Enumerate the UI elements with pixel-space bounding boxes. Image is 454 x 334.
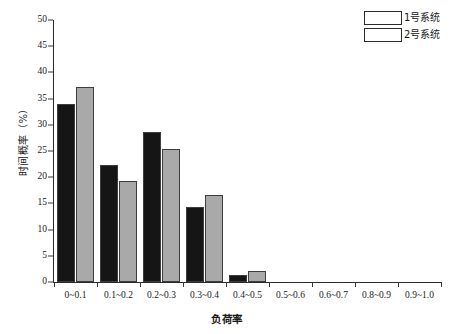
- x-axis-tick-mark: [226, 282, 227, 287]
- x-axis-tick-mark: [312, 282, 313, 287]
- x-axis-tick-mark: [441, 282, 442, 287]
- y-axis-tick-label: 40: [38, 68, 48, 78]
- plot-area: [54, 20, 441, 282]
- bar-2-group-2: [119, 181, 137, 282]
- bar-1-group-2: [100, 165, 118, 282]
- bar-2-group-1: [76, 87, 94, 282]
- y-axis-tick-label: 0: [42, 277, 47, 287]
- x-axis-tick-mark: [97, 282, 98, 287]
- x-axis-tick-label: 0.9~1.0: [405, 290, 434, 301]
- x-axis-tick-mark: [140, 282, 141, 287]
- bar-1-group-1: [57, 104, 75, 282]
- x-axis-tick-mark: [183, 282, 184, 287]
- y-axis-tick-label: 15: [38, 199, 48, 209]
- y-axis-tick-label: 25: [38, 146, 48, 156]
- y-axis-tick-label: 20: [38, 172, 48, 182]
- y-axis-tick-label: 35: [38, 94, 48, 104]
- bar-2-group-3: [162, 149, 180, 282]
- x-axis-tick-mark: [355, 282, 356, 287]
- x-axis-tick-label: 0.6~0.7: [319, 290, 348, 301]
- bar-2-group-5: [248, 271, 266, 282]
- x-axis-tick-label: 0~0.1: [65, 290, 87, 301]
- bar-1-group-5: [229, 275, 247, 282]
- bar-1-group-3: [143, 132, 161, 282]
- x-axis-tick-label: 0.1~0.2: [104, 290, 133, 301]
- y-axis-ticks: 05101520253035404550: [0, 0, 53, 334]
- bar-2-group-4: [205, 195, 223, 282]
- y-axis-tick-label: 5: [42, 251, 47, 261]
- x-axis-tick-mark: [54, 282, 55, 287]
- x-axis-title: 负荷率: [0, 311, 454, 326]
- x-axis-tick-mark: [269, 282, 270, 287]
- x-axis-tick-label: 0.4~0.5: [233, 290, 262, 301]
- y-axis-tick-label: 30: [38, 120, 48, 130]
- x-axis-tick-label: 0.5~0.6: [276, 290, 305, 301]
- bar-chart: 1号系统 2号系统 时间概率（%） 05101520253035404550 负…: [0, 0, 454, 334]
- bar-1-group-4: [186, 207, 204, 282]
- x-axis-tick-label: 0.2~0.3: [147, 290, 176, 301]
- y-axis-tick-label: 10: [38, 225, 48, 235]
- x-axis-tick-label: 0.8~0.9: [362, 290, 391, 301]
- y-axis-tick-label: 45: [38, 41, 48, 51]
- x-axis-tick-mark: [398, 282, 399, 287]
- x-axis-line: [53, 282, 441, 283]
- y-axis-tick-label: 50: [38, 15, 48, 25]
- x-axis-tick-label: 0.3~0.4: [190, 290, 219, 301]
